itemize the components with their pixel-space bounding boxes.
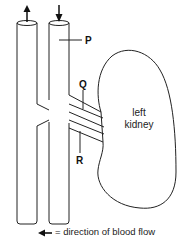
kidney-label-line2: kidney [125,119,154,130]
legend-text: = direction of blood flow [55,226,155,237]
label-R: R [76,155,84,166]
left-arrow-icon [38,230,52,237]
left-vessel [17,21,37,225]
renal-vein-branch [37,104,49,126]
down-arrow-icon [56,5,63,22]
label-P: P [85,35,92,46]
up-arrow-icon [24,5,31,22]
label-Q: Q [79,79,87,90]
kidney-label-line1: left [132,107,146,118]
kidney-blood-vessel-diagram: P Q R left kidney [0,0,195,241]
right-vessel [49,21,69,225]
